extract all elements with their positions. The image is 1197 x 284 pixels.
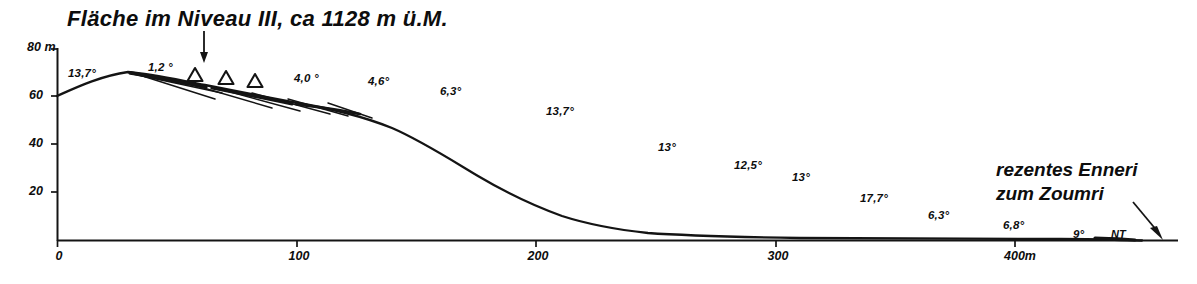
y-axis-tick-label-60: 60 [29, 89, 43, 102]
shade-segment-3 [296, 104, 360, 114]
enneri-note-line-2: zum Zoumri [996, 182, 1104, 205]
slope-label-13-first: 13° [658, 142, 676, 154]
figure-title: Fläche im Niveau III, ca 1128 m ü.M. [67, 8, 448, 30]
axes [51, 48, 1178, 247]
slope-label-13-second: 13° [792, 172, 810, 184]
triangle-marker-2 [219, 71, 234, 84]
enneri-note-line-1: rezentes Enneri [996, 158, 1138, 181]
slope-label-9: 9° [1073, 229, 1084, 241]
slope-label-13-7-lower: 13,7° [546, 106, 574, 118]
enneri-pointer-arrow [1133, 202, 1163, 240]
slope-label-17-7: 17,7° [860, 193, 888, 205]
slope-label-12-5: 12,5° [734, 160, 762, 172]
profile-shading [130, 73, 1135, 240]
slope-label-4-0: 4,0 ° [294, 73, 319, 85]
y-axis-tick-label-20: 20 [29, 185, 43, 198]
profile-drawing [0, 0, 1197, 284]
triangle-marker-3 [248, 74, 263, 87]
slope-label-1-2: 1,2 ° [148, 62, 173, 74]
terrain-profile-figure: Fläche im Niveau III, ca 1128 m ü.M. 80 … [0, 0, 1197, 284]
y-axis-tick-label-40: 40 [29, 137, 43, 150]
x-axis-tick-label-100: 100 [289, 250, 310, 263]
enneri-pointer-head [1150, 226, 1163, 240]
x-axis-tick-label-300: 300 [768, 250, 789, 263]
slope-label-6-3-lower: 6,3° [928, 210, 949, 222]
x-axis-tick-label-0: 0 [56, 250, 63, 263]
title-pointer-head [200, 52, 208, 63]
x-axis-tick-label-200: 200 [528, 250, 549, 263]
x-axis-tick-label-400: 400m [1004, 250, 1036, 263]
y-axis-tick-label-80: 80 m [27, 41, 56, 54]
triangle-marker-1 [188, 68, 203, 81]
slope-label-6-8: 6,8° [1003, 220, 1024, 232]
slope-label-4-6: 4,6° [368, 76, 389, 88]
nt-terminus-label: NT [1111, 229, 1126, 240]
slope-label-13-7-upper: 13,7° [68, 68, 96, 80]
terrain-profile-line [57, 72, 1142, 241]
title-pointer-arrow [200, 31, 208, 63]
slope-label-6-3-upper: 6,3° [440, 86, 461, 98]
